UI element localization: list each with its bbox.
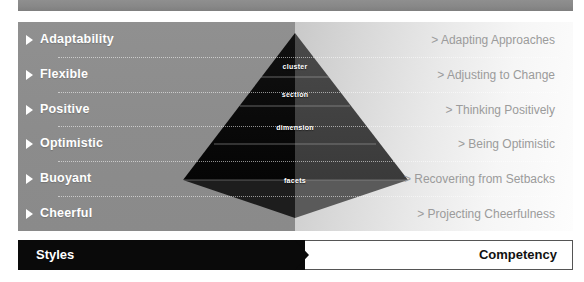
style-label: Adaptability	[40, 32, 114, 46]
main-panel: cluster section dimension facets Adaptab…	[18, 22, 573, 231]
style-label: Buoyant	[40, 171, 91, 185]
competency-label: > Adjusting to Change	[437, 68, 555, 82]
style-label: Flexible	[40, 67, 88, 81]
competency-label: > Adapting Approaches	[431, 33, 555, 47]
chevron-right-icon	[26, 139, 33, 149]
table-row[interactable]: Adaptability > Adapting Approaches	[18, 22, 573, 57]
table-row[interactable]: Optimistic > Being Optimistic	[18, 126, 573, 161]
style-label: Cheerful	[40, 206, 92, 220]
competency-label: > Recovering from Setbacks	[404, 172, 555, 186]
table-row[interactable]: Positive > Thinking Positively	[18, 92, 573, 127]
chevron-right-icon	[26, 70, 33, 80]
diagram-root: cluster section dimension facets Adaptab…	[0, 0, 584, 282]
competency-label: > Projecting Cheerfulness	[417, 207, 555, 221]
competency-label: > Being Optimistic	[458, 137, 555, 151]
style-label: Optimistic	[40, 136, 103, 150]
chevron-right-icon	[26, 209, 33, 219]
top-band	[18, 0, 573, 11]
styles-arrow-icon	[295, 240, 309, 270]
table-row[interactable]: Buoyant > Recovering from Setbacks	[18, 161, 573, 196]
style-label: Positive	[40, 102, 90, 116]
table-row[interactable]: Flexible > Adjusting to Change	[18, 57, 573, 92]
styles-footer-label: Styles	[36, 247, 74, 262]
chevron-right-icon	[26, 105, 33, 115]
rows-container: Adaptability > Adapting Approaches Flexi…	[18, 22, 573, 231]
footer-bar: Styles Competency	[18, 240, 573, 270]
table-row[interactable]: Cheerful > Projecting Cheerfulness	[18, 196, 573, 231]
competency-label: > Thinking Positively	[446, 103, 556, 117]
chevron-right-icon	[26, 35, 33, 45]
chevron-right-icon	[26, 174, 33, 184]
competency-footer-label: Competency	[479, 247, 557, 262]
